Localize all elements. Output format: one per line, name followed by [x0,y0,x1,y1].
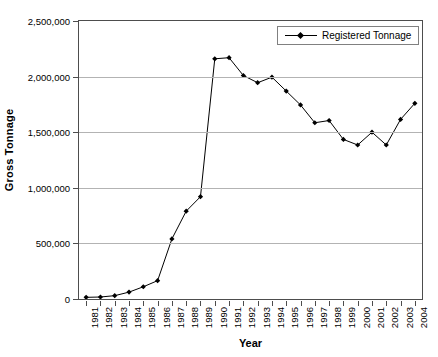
y-axis-tick-label: 1,000,000 [28,182,70,193]
x-axis-tick-label: 2003 [405,307,415,328]
y-axis-tick-mark [73,132,78,133]
x-axis-tick-label: 1982 [104,307,114,328]
plot-area [78,20,423,300]
line-chart: Gross Tonnage 0500,0001,000,0001,500,000… [0,0,438,357]
legend-entry-label: Registered Tonnage [322,30,411,41]
y-axis-tick-mark [73,21,78,22]
y-axis-tick-mark [73,77,78,78]
x-axis-tick-label: 1990 [219,307,229,328]
x-axis-tick-mark [358,301,359,306]
y-axis-tick-label: 2,500,000 [28,16,70,27]
x-axis-tick-mark [372,301,373,306]
y-axis-tick-mark [73,188,78,189]
x-axis-tick-label: 2004 [419,307,429,328]
x-axis-tick-mark [200,301,201,306]
data-point-marker [141,284,146,289]
x-axis-tick-mark [186,301,187,306]
y-axis-title-label: Gross Tonnage [3,109,15,191]
x-axis-tick-mark [386,301,387,306]
x-axis-tick-mark [415,301,416,306]
gridline [79,132,422,133]
y-axis-tick-mark [73,299,78,300]
x-axis-title: Year [78,337,423,349]
x-axis-tick-mark [100,301,101,306]
data-point-marker [255,80,260,85]
y-axis-tick-label: 2,000,000 [28,71,70,82]
x-axis-tick-mark [329,301,330,306]
series-polyline [86,58,415,298]
x-axis-tick-labels: 1981198219831984198519861987198819891990… [78,307,423,335]
diamond-marker-icon [285,31,317,40]
x-axis-tick-label: 1981 [90,307,100,328]
x-axis-tick-label: 1986 [162,307,172,328]
y-axis-tick-mark [73,243,78,244]
x-axis-tick-mark [215,301,216,306]
data-point-marker [84,295,89,299]
y-axis-tick-label: 500,000 [36,238,70,249]
x-axis-tick-label: 1999 [347,307,357,328]
x-axis-tick-mark [229,301,230,306]
x-axis-tick-label: 1988 [190,307,200,328]
data-point-marker [155,278,160,283]
x-axis-tick-mark [343,301,344,306]
x-axis-tick-label: 2002 [390,307,400,328]
x-axis-tick-label: 1995 [290,307,300,328]
x-axis-tick-mark [301,301,302,306]
data-point-marker [112,293,117,298]
x-axis-tick-mark [315,301,316,306]
x-axis-tick-label: 1993 [262,307,272,328]
gridline [79,243,422,244]
x-axis-tick-label: 1991 [233,307,243,328]
x-axis-tick-mark [286,301,287,306]
x-axis-tick-mark [86,301,87,306]
y-axis-tick-label: 1,500,000 [28,127,70,138]
x-axis-tick-label: 1987 [176,307,186,328]
x-axis-tick-label: 2000 [362,307,372,328]
x-axis-tick-label: 1994 [276,307,286,328]
x-axis-tick-label: 1984 [133,307,143,328]
x-axis-tick-mark [401,301,402,306]
x-axis-tick-label: 1998 [333,307,343,328]
x-axis-tick-mark [172,301,173,306]
x-axis-tick-label: 1992 [247,307,257,328]
x-axis-tick-mark [143,301,144,306]
x-axis-tick-mark [115,301,116,306]
y-axis-title: Gross Tonnage [0,0,18,300]
x-axis-tick-label: 1997 [319,307,329,328]
gridline [79,77,422,78]
y-axis-tick-label: 0 [65,294,70,305]
y-axis-tick-labels: 0500,0001,000,0001,500,0002,000,0002,500… [18,20,74,300]
x-axis-tick-label: 1989 [204,307,214,328]
x-axis-tick-mark [243,301,244,306]
x-axis-tick-label: 2001 [376,307,386,328]
x-axis-tick-mark [158,301,159,306]
x-axis-tick-label: 1983 [119,307,129,328]
x-axis-tick-label: 1996 [305,307,315,328]
x-axis-tick-mark [258,301,259,306]
gridline [79,188,422,189]
x-axis-tick-mark [272,301,273,306]
data-point-marker [169,236,174,241]
data-point-marker [98,294,103,299]
series-line-registered-tonnage [79,21,422,299]
chart-legend: Registered Tonnage [277,26,419,45]
data-point-marker [212,56,217,61]
data-point-marker [126,290,131,295]
x-axis-tick-mark [129,301,130,306]
x-axis-tick-label: 1985 [147,307,157,328]
